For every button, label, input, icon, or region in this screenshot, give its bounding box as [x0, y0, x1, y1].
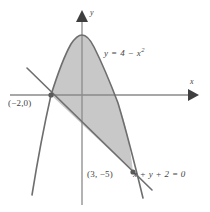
x-axis-arrowhead	[188, 89, 199, 101]
x-axis-label: x	[190, 78, 194, 86]
parabola-exponent: 2	[141, 46, 145, 53]
parabola-equation-text: y = 4 − x	[104, 48, 141, 58]
parabola-equation-label: y = 4 − x2	[104, 47, 145, 58]
right-intersection-label: (3, −5)	[87, 170, 113, 179]
line-equation-label: x + y + 2 = 0	[133, 170, 186, 179]
y-axis-arrowhead	[76, 10, 88, 22]
left-intersection-label: (−2,0)	[8, 99, 32, 108]
y-axis-label: y	[90, 9, 94, 17]
left-intersection-point	[48, 92, 53, 97]
